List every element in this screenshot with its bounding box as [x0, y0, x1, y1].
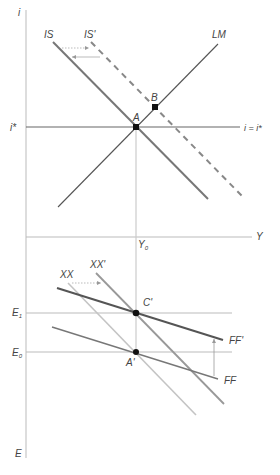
- ff-prime-label: FF': [229, 335, 244, 346]
- e-axis-label: E: [15, 448, 22, 459]
- e0-label: E0: [12, 347, 23, 359]
- xx-prime-label: XX': [89, 259, 106, 270]
- point-a-prime-label: A': [125, 357, 136, 368]
- point-a-prime: [133, 349, 139, 355]
- ff-label: FF: [224, 375, 237, 386]
- is-prime-curve: [91, 42, 244, 198]
- i-axis-label: i: [18, 7, 21, 18]
- is-lm-aa-diagram: i Y i* i = i* IS IS' LM A B Y0 E E1 E0 X…: [0, 0, 280, 475]
- is-curve: [53, 42, 208, 199]
- y-axis-label: Y: [256, 231, 264, 242]
- lm-label: LM: [212, 29, 227, 40]
- point-b-label: B: [151, 92, 158, 103]
- point-c-prime: [133, 310, 140, 317]
- point-c-prime-label: C': [143, 297, 153, 308]
- e1-label: E1: [12, 307, 22, 319]
- xx-prime-curve: [96, 273, 224, 404]
- parity-line-label: i = i*: [244, 123, 262, 133]
- istar-label: i*: [10, 122, 17, 133]
- is-prime-label: IS': [84, 29, 96, 40]
- point-b: [152, 104, 158, 110]
- xx-curve: [68, 283, 196, 415]
- y0-label: Y0: [138, 239, 149, 251]
- point-a-label: A: [132, 112, 140, 123]
- ff-prime-curve: [57, 288, 223, 340]
- is-label: IS: [44, 29, 54, 40]
- xx-label: XX: [59, 269, 74, 280]
- point-a: [133, 124, 139, 130]
